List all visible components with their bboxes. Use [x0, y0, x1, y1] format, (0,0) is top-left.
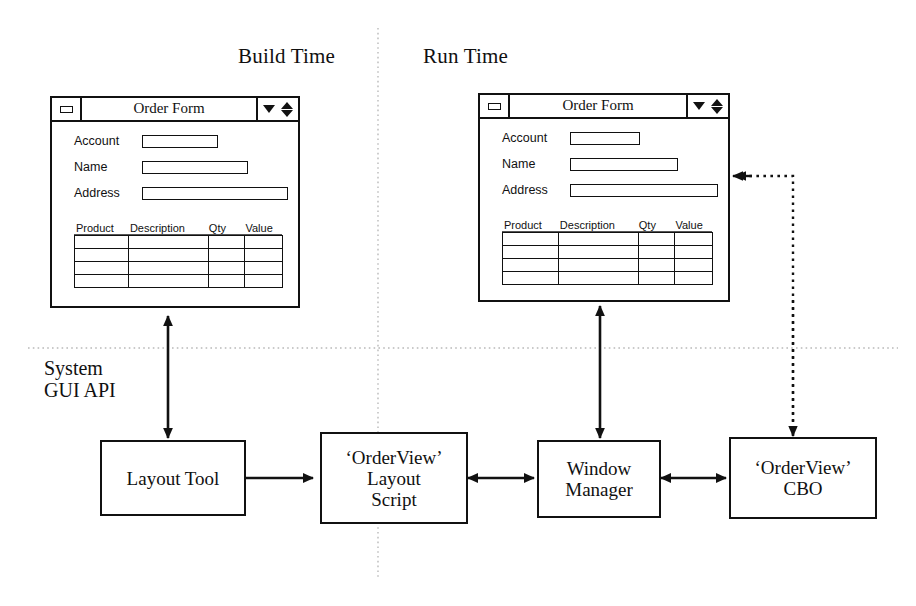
- menu-down-icon[interactable]: [263, 105, 275, 113]
- field-label-account: Account: [74, 134, 142, 148]
- resize-updown-icon[interactable]: [281, 102, 293, 117]
- window-menu-button[interactable]: [480, 95, 510, 117]
- window-restore-icon: [488, 103, 501, 110]
- table-row[interactable]: [75, 236, 283, 249]
- arrow-cbo-runform-dotted: [733, 176, 793, 436]
- name-field[interactable]: [142, 161, 248, 174]
- node-label: Window Manager: [565, 458, 633, 500]
- grid-col-value: Value: [243, 222, 282, 234]
- form-row-name: Name: [74, 160, 248, 174]
- node-layout-tool[interactable]: Layout Tool: [100, 440, 246, 516]
- grid-col-qty: Qty: [207, 222, 244, 234]
- table-row[interactable]: [503, 233, 713, 246]
- grid-col-value: Value: [673, 219, 712, 231]
- form-row-address: Address: [74, 186, 288, 200]
- phase-label-build-time: Build Time: [238, 44, 335, 69]
- window-controls[interactable]: [686, 95, 728, 117]
- grid-col-product: Product: [502, 219, 558, 231]
- field-label-address: Address: [74, 186, 142, 200]
- window-menu-button[interactable]: [52, 98, 82, 120]
- window-controls[interactable]: [256, 98, 298, 120]
- table-row[interactable]: [503, 272, 713, 285]
- order-lines-grid[interactable]: Product Description Qty Value: [74, 222, 282, 288]
- node-label: Layout Tool: [127, 468, 220, 489]
- window-titlebar[interactable]: Order Form: [480, 95, 728, 119]
- window-body: Account Name Address Product Description…: [480, 119, 728, 300]
- node-window-manager[interactable]: Window Manager: [537, 440, 661, 518]
- form-row-address: Address: [502, 183, 718, 197]
- name-field[interactable]: [570, 158, 678, 171]
- order-form-window-run[interactable]: Order Form Account Name Address: [478, 93, 730, 302]
- window-titlebar[interactable]: Order Form: [52, 98, 298, 122]
- grid-col-product: Product: [74, 222, 128, 234]
- window-body: Account Name Address Product Description…: [52, 122, 298, 306]
- field-label-account: Account: [502, 131, 570, 145]
- phase-label-run-time: Run Time: [423, 44, 508, 69]
- grid-body[interactable]: [74, 235, 283, 288]
- resize-updown-icon[interactable]: [711, 99, 723, 114]
- menu-down-icon[interactable]: [693, 102, 705, 110]
- grid-header-row: Product Description Qty Value: [74, 222, 282, 235]
- grid-header-row: Product Description Qty Value: [502, 219, 712, 232]
- grid-col-description: Description: [558, 219, 637, 231]
- table-row[interactable]: [75, 275, 283, 288]
- grid-body[interactable]: [502, 232, 713, 285]
- table-row[interactable]: [503, 259, 713, 272]
- table-row[interactable]: [75, 262, 283, 275]
- grid-col-qty: Qty: [637, 219, 674, 231]
- form-row-name: Name: [502, 157, 678, 171]
- window-restore-icon: [60, 106, 73, 113]
- form-row-account: Account: [74, 134, 218, 148]
- account-field[interactable]: [570, 132, 640, 145]
- table-row[interactable]: [503, 246, 713, 259]
- field-label-address: Address: [502, 183, 570, 197]
- account-field[interactable]: [142, 135, 218, 148]
- node-orderview-cbo[interactable]: ‘OrderView’ CBO: [729, 437, 877, 519]
- node-orderview-layout-script[interactable]: ‘OrderView’ Layout Script: [320, 432, 468, 524]
- address-field[interactable]: [142, 187, 288, 200]
- window-title: Order Form: [82, 98, 256, 120]
- system-gui-api-label: System GUI API: [44, 357, 116, 401]
- node-label: ‘OrderView’ Layout Script: [346, 447, 443, 510]
- order-lines-grid[interactable]: Product Description Qty Value: [502, 219, 712, 285]
- form-row-account: Account: [502, 131, 640, 145]
- node-label: ‘OrderView’ CBO: [755, 457, 852, 499]
- address-field[interactable]: [570, 184, 718, 197]
- diagram-canvas: Build Time Run Time System GUI API Order…: [0, 0, 916, 606]
- field-label-name: Name: [502, 157, 570, 171]
- order-form-window-build[interactable]: Order Form Account Name Address: [50, 96, 300, 308]
- field-label-name: Name: [74, 160, 142, 174]
- table-row[interactable]: [75, 249, 283, 262]
- grid-col-description: Description: [128, 222, 207, 234]
- window-title: Order Form: [510, 95, 686, 117]
